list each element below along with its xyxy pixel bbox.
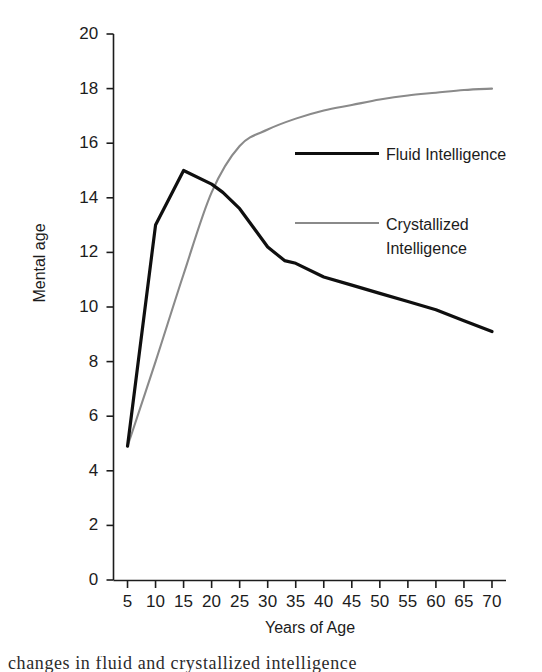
y-tick-label: 12 [55, 243, 99, 260]
y-tick-label: 14 [55, 189, 99, 206]
x-tick-label: 70 [475, 593, 509, 610]
y-tick-label: 2 [55, 516, 99, 533]
fluid-intelligence-line [128, 171, 492, 447]
y-tick-label: 18 [55, 80, 99, 97]
intelligence-line-chart-figure: 02468101214161820 5101520253035404550556… [0, 0, 542, 672]
y-tick-label: 6 [55, 407, 99, 424]
x-axis-title: Years of Age [130, 620, 490, 636]
figure-caption-clipped: changes in fluid and crystallized intell… [0, 656, 542, 672]
legend-line-swatch-fluid [295, 152, 379, 155]
legend-item-crystallized-intelligence: Crystallized Intelligence [293, 213, 538, 257]
y-tick-label: 20 [55, 25, 99, 42]
legend-line-swatch-crystallized [295, 222, 379, 224]
y-tick-label: 10 [55, 298, 99, 315]
legend-label-crystallized: Crystallized Intelligence [386, 213, 469, 261]
y-tick-label: 0 [55, 571, 99, 588]
y-tick-label: 8 [55, 353, 99, 370]
y-axis-ticks [107, 34, 114, 580]
y-axis-title: Mental age [32, 203, 48, 323]
y-tick-label: 4 [55, 462, 99, 479]
legend-item-fluid-intelligence: Fluid Intelligence [293, 143, 538, 187]
legend-label-fluid: Fluid Intelligence [386, 143, 506, 167]
y-tick-label: 16 [55, 134, 99, 151]
figure-caption-text: changes in fluid and crystallized intell… [8, 656, 542, 672]
